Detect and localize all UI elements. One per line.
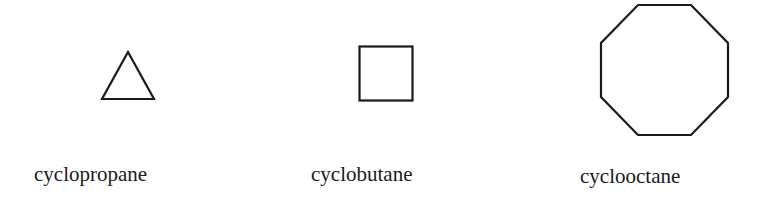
cyclopropane-triangle-icon <box>102 52 154 99</box>
cyclooctane-label: cyclooctane <box>580 164 680 189</box>
cyclobutane-label: cyclobutane <box>311 162 412 187</box>
cyclobutane-square-icon <box>360 47 413 101</box>
cyclopropane-label: cyclopropane <box>34 162 147 187</box>
cyclooctane-octagon-icon <box>601 5 728 135</box>
